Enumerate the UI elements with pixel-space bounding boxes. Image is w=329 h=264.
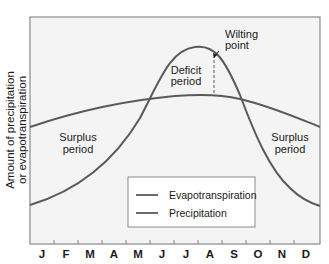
legend-label-precipitation: Precipitation — [169, 207, 227, 219]
annotation-surplus-right: Surplus period — [271, 131, 309, 155]
legend: Evapotranspiration Precipitation — [128, 177, 257, 227]
month-label: F — [62, 248, 69, 260]
month-label: A — [206, 248, 214, 260]
legend-label-evapotranspiration: Evapotranspiration — [169, 189, 257, 201]
annotation-deficit: Deficit period — [171, 64, 202, 87]
month-label: O — [254, 248, 263, 260]
month-label: J — [39, 248, 45, 260]
month-label: N — [278, 248, 286, 260]
y-axis-label-line1: Amount of precipitation — [4, 71, 16, 189]
legend-box — [128, 177, 255, 227]
month-label: A — [110, 248, 118, 260]
deficit-line2: period — [171, 75, 202, 87]
month-label: D — [302, 248, 310, 260]
surplus-right-line1: Surplus — [271, 131, 309, 143]
x-axis-month-labels: J F M A M J J A S O N D — [39, 248, 310, 260]
month-label: M — [85, 248, 95, 260]
water-budget-diagram: Amount of precipitation or evapotranspir… — [0, 0, 329, 264]
y-axis-label-line2: or evapotranspiration — [16, 76, 28, 184]
month-label: J — [159, 248, 165, 260]
annotation-surplus-left: Surplus period — [59, 131, 97, 155]
surplus-right-line2: period — [275, 143, 306, 155]
surplus-left-line1: Surplus — [59, 131, 97, 143]
y-axis-label: Amount of precipitation or evapotranspir… — [4, 71, 28, 189]
month-label: J — [183, 248, 189, 260]
month-label: M — [133, 248, 143, 260]
month-label: S — [230, 248, 238, 260]
surplus-left-line2: period — [63, 143, 94, 155]
wilting-line2: point — [225, 39, 249, 51]
